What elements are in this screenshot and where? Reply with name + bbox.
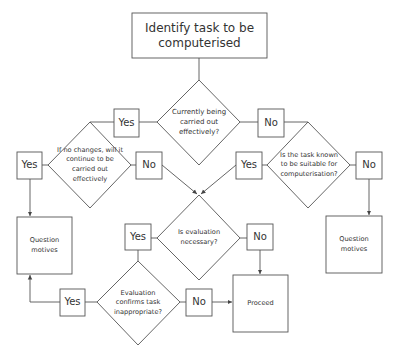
decision-known-suitable-label: Is the task known to be suitable for com… [276, 140, 342, 190]
yes-label-5: Yes [60, 289, 85, 316]
decision-evaluation-necessary-label: Is evaluation necessary? [172, 220, 226, 256]
yes-label-2: Yes [17, 152, 42, 179]
no-label-5: No [186, 289, 212, 316]
decision-continue-effective-label: If no changes, will it continue to be ca… [56, 140, 124, 190]
yes-label-4: Yes [125, 224, 151, 250]
question-motives-left-label: Question motives [20, 217, 69, 274]
no-label-2: No [136, 152, 162, 179]
no-label-3: No [356, 152, 382, 179]
decision-evaluation-confirms-label: Evaluation confirms task inappropriate? [108, 282, 168, 324]
proceed-label: Proceed [233, 275, 288, 332]
no-label-4: No [247, 224, 273, 250]
no-label-1: No [258, 109, 284, 137]
start-label: Identify task to be computerised [132, 13, 267, 58]
yes-label-1: Yes [114, 109, 139, 137]
decision-currently-effective-label: Currently being carried out effectively? [167, 97, 231, 147]
question-motives-right-label: Question motives [330, 216, 378, 273]
yes-label-3: Yes [236, 152, 262, 179]
